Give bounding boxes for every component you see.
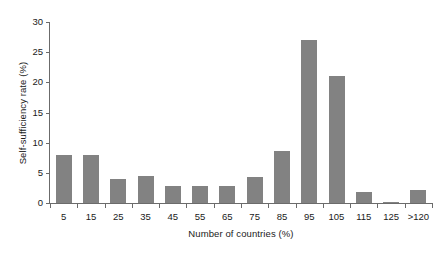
x-tick-label: >120 bbox=[405, 210, 432, 223]
x-tick-mark bbox=[105, 204, 106, 208]
y-axis-tick: 0 bbox=[0, 203, 50, 204]
y-tick-label: 30 bbox=[32, 15, 43, 28]
bar bbox=[83, 155, 99, 203]
x-tick-mark bbox=[50, 204, 51, 208]
x-tick-mark bbox=[296, 204, 297, 208]
bar bbox=[219, 186, 235, 203]
x-tick-mark bbox=[214, 204, 215, 208]
y-tick-label: 25 bbox=[32, 45, 43, 58]
y-axis-tick: 25 bbox=[0, 52, 50, 53]
bar-chart-figure: Self-sufficiency rate (%) 051015202530 5… bbox=[0, 0, 445, 262]
bar bbox=[192, 186, 208, 203]
y-tick-label: 20 bbox=[32, 75, 43, 88]
bar bbox=[383, 202, 399, 203]
x-tick-mark bbox=[350, 204, 351, 208]
x-tick-label: 115 bbox=[350, 210, 377, 223]
bar bbox=[247, 177, 263, 203]
y-axis-tick: 30 bbox=[0, 22, 50, 23]
x-tick-mark bbox=[377, 204, 378, 208]
bar bbox=[301, 40, 317, 203]
x-tick-label: 105 bbox=[323, 210, 350, 223]
x-tick-label: 85 bbox=[268, 210, 295, 223]
bar bbox=[410, 190, 426, 203]
x-tick-label: 95 bbox=[296, 210, 323, 223]
x-tick-label: 75 bbox=[241, 210, 268, 223]
x-tick-label: 45 bbox=[159, 210, 186, 223]
x-axis-title: Number of countries (%) bbox=[50, 228, 432, 239]
x-tick-mark bbox=[268, 204, 269, 208]
y-axis-tick: 15 bbox=[0, 113, 50, 114]
x-tick-label: 65 bbox=[214, 210, 241, 223]
y-axis-tick: 5 bbox=[0, 173, 50, 174]
y-tick-label: 5 bbox=[38, 166, 43, 179]
x-tick-mark bbox=[186, 204, 187, 208]
x-tick-mark bbox=[241, 204, 242, 208]
bar bbox=[165, 186, 181, 203]
x-tick-label: 15 bbox=[77, 210, 104, 223]
x-tick-mark bbox=[323, 204, 324, 208]
bar bbox=[110, 179, 126, 203]
x-tick-mark bbox=[77, 204, 78, 208]
y-tick-label: 10 bbox=[32, 136, 43, 149]
x-tick-mark bbox=[132, 204, 133, 208]
x-tick-mark bbox=[405, 204, 406, 208]
y-tick-label: 0 bbox=[38, 196, 43, 209]
y-axis-tick: 20 bbox=[0, 82, 50, 83]
x-tick-label: 125 bbox=[377, 210, 404, 223]
y-axis-tick: 10 bbox=[0, 143, 50, 144]
x-tick-label: 5 bbox=[50, 210, 77, 223]
y-tick-label: 15 bbox=[32, 106, 43, 119]
x-tick-mark bbox=[432, 204, 433, 208]
bar bbox=[56, 155, 72, 203]
bar bbox=[274, 151, 290, 203]
bar bbox=[138, 176, 154, 203]
plot-area bbox=[50, 22, 432, 203]
x-tick-label: 35 bbox=[132, 210, 159, 223]
bar bbox=[356, 192, 372, 203]
bar bbox=[329, 76, 345, 203]
x-tick-label: 25 bbox=[105, 210, 132, 223]
x-tick-mark bbox=[159, 204, 160, 208]
x-tick-label: 55 bbox=[186, 210, 213, 223]
